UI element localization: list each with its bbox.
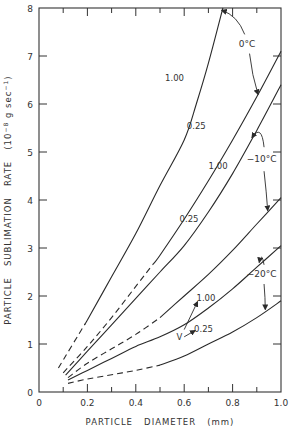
- x-tick-label: 0.8: [225, 398, 240, 408]
- x-tick-label: 0.6: [177, 398, 192, 408]
- series-dashed-extrapolation: [58, 324, 85, 368]
- series-solid: [66, 85, 281, 375]
- plot-frame: [39, 8, 281, 392]
- annotations: 0°C−10°C−20°C1.000.251.000.251.000.25V: [165, 39, 276, 342]
- temperature-label: 0°C: [239, 39, 256, 49]
- x-tick-label: 0: [36, 398, 42, 408]
- temperature-label: −20°C: [247, 269, 277, 279]
- series-line: [66, 85, 281, 375]
- annotation-arrows: [184, 10, 267, 336]
- y-tick-label: 2: [27, 292, 33, 302]
- axes-frame: [39, 8, 281, 392]
- series-line: [63, 51, 281, 373]
- pointer-arrow-icon: [250, 54, 258, 95]
- y-tick-label: 0: [27, 388, 33, 398]
- x-axis-label: PARTICLE DIAMETER (mm): [86, 417, 235, 427]
- x-tick-label: 0.4: [129, 398, 144, 408]
- series-dashed-extrapolation: [68, 365, 160, 383]
- v-value-label: 1.00: [197, 293, 216, 303]
- series-solid: [160, 198, 281, 318]
- pointer-arrow-icon: [222, 10, 245, 34]
- sublimation-rate-chart: 012345678 00.20.40.60.81.0 0°C−10°C−20°C…: [0, 0, 291, 432]
- series-solid: [85, 8, 223, 325]
- y-tick-label: 5: [27, 148, 33, 158]
- v-value-label: 1.00: [209, 161, 228, 171]
- series-line: [58, 8, 223, 368]
- y-tick-label: 4: [27, 196, 33, 206]
- pointer-arrow-icon: [264, 284, 265, 309]
- pointer-arrow-icon: [184, 331, 195, 337]
- v-label: V: [176, 332, 182, 342]
- v-value-label: 0.25: [187, 121, 206, 131]
- y-axis-label: PARTICLE SUBLIMATION RATE (10−8 g sec−1): [2, 75, 13, 324]
- x-tick-label: 0.2: [80, 398, 94, 408]
- series-dashed-extrapolation: [68, 318, 160, 378]
- series-dashed-extrapolation: [63, 265, 153, 373]
- x-tick-label: 1.0: [274, 398, 289, 408]
- chart-canvas: 012345678 00.20.40.60.81.0 0°C−10°C−20°C…: [0, 0, 291, 432]
- y-tick-label: 3: [27, 244, 33, 254]
- y-tick-label: 7: [27, 52, 33, 62]
- y-axis-ticks: 012345678: [27, 4, 281, 398]
- v-value-label: 1.00: [165, 73, 184, 83]
- data-series: [58, 8, 281, 383]
- temperature-label: −10°C: [247, 154, 277, 164]
- x-axis-ticks: 00.20.40.60.81.0: [36, 8, 288, 408]
- y-tick-label: 6: [27, 100, 33, 110]
- v-value-label: 0.25: [180, 214, 199, 224]
- y-tick-label: 1: [27, 340, 33, 350]
- pointer-arrow-icon: [252, 132, 264, 147]
- series-line: [68, 198, 281, 378]
- v-value-label: 0.25: [194, 324, 213, 334]
- series-line: [68, 301, 281, 384]
- y-tick-label: 8: [27, 4, 33, 14]
- pointer-arrow-icon: [264, 171, 268, 210]
